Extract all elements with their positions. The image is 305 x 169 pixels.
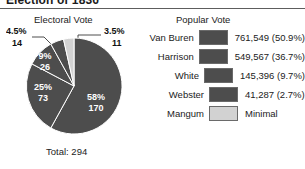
- popular-vote-legend: Van Buren 761,549 (50.9%) Harrison 549,5…: [148, 28, 305, 123]
- legend-name: Harrison: [148, 51, 199, 62]
- legend-row: Van Buren 761,549 (50.9%): [148, 28, 305, 47]
- pie-label-van-buren-count: 170: [88, 103, 103, 113]
- legend-value: 41,287 (2.7%): [238, 89, 305, 100]
- pie-label-white-pct: 9%: [38, 51, 51, 61]
- legend-value: Minimal: [238, 108, 278, 119]
- legend-swatch: [209, 106, 238, 121]
- pie-label-harrison-pct: 25%: [34, 82, 52, 92]
- pie-callout-webster-count: 14: [12, 38, 22, 48]
- title-divider: [0, 8, 305, 9]
- legend-row: Mangum Minimal: [148, 104, 305, 123]
- pie-label-harrison-count: 73: [38, 93, 48, 103]
- legend-name: White: [148, 70, 204, 81]
- pie-svg: 58% 170 25% 73 9% 26 4.5% 14 3.5% 11: [6, 26, 142, 142]
- pie-label-van-buren-pct: 58%: [87, 92, 105, 102]
- pie-callout-mangum-count: 11: [112, 38, 122, 48]
- legend-row: Webster 41,287 (2.7%): [148, 85, 305, 104]
- pie-label-white-count: 26: [40, 62, 50, 72]
- page-title: Election of 1836: [6, 0, 99, 7]
- legend-swatch: [204, 68, 233, 83]
- legend-swatch: [199, 30, 228, 45]
- legend-row: White 145,396 (9.7%): [148, 66, 305, 85]
- legend-value: 549,567 (36.7%): [228, 51, 305, 62]
- electoral-total-label: Total: 294: [46, 146, 87, 157]
- popular-vote-heading: Popular Vote: [176, 14, 230, 25]
- legend-name: Mangum: [148, 108, 209, 119]
- legend-swatch: [209, 87, 238, 102]
- pie-callout-webster-pct: 4.5%: [6, 26, 27, 36]
- legend-value: 145,396 (9.7%): [233, 70, 305, 81]
- legend-name: Van Buren: [148, 32, 199, 43]
- pie-callout-mangum-pct: 3.5%: [104, 26, 125, 36]
- electoral-vote-heading: Electoral Vote: [34, 14, 93, 25]
- election-chart-figure: Election of 1836 Electoral Vote Popular …: [0, 0, 305, 169]
- legend-swatch: [199, 49, 228, 64]
- electoral-pie-chart: 58% 170 25% 73 9% 26 4.5% 14 3.5% 11: [6, 26, 142, 142]
- legend-name: Webster: [148, 89, 209, 100]
- legend-row: Harrison 549,567 (36.7%): [148, 47, 305, 66]
- legend-value: 761,549 (50.9%): [228, 32, 305, 43]
